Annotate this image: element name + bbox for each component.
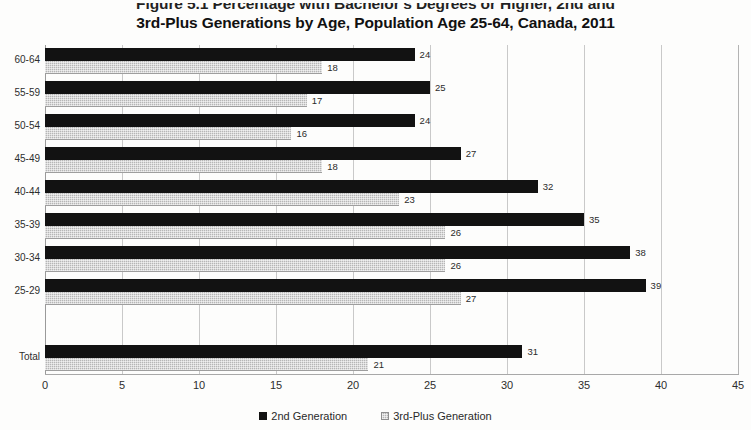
bar-25-29-series-1	[45, 279, 646, 292]
bar-45-49-series-1	[45, 147, 461, 160]
y-axis-label-30-34: 30-34	[0, 252, 40, 263]
legend-swatch-icon-3rd-plus-generation	[381, 412, 389, 420]
bar-35-39-series-1	[45, 213, 584, 226]
legend-item-2nd-generation[interactable]: 2nd Generation	[259, 410, 347, 422]
legend-label-2nd-generation: 2nd Generation	[271, 410, 347, 422]
chart-title: Figure 5.1 Percentage with Bachelor's De…	[0, 0, 751, 32]
bar-50-54-series-2	[45, 127, 291, 140]
x-axis-line	[45, 374, 739, 375]
gridline-40	[661, 45, 662, 374]
bar-40-44-series-1	[45, 180, 538, 193]
y-axis-label-45-49: 45-49	[0, 153, 40, 164]
bar-50-54-series-1	[45, 114, 415, 127]
x-tick-label-25: 25	[424, 379, 436, 391]
gridline-45	[738, 45, 739, 374]
bar-45-49-series-2	[45, 160, 322, 173]
x-tick-label-40: 40	[655, 379, 667, 391]
data-label-50-54-series-1: 24	[420, 114, 431, 127]
bar-30-34-series-1	[45, 246, 630, 259]
x-tick-label-15: 15	[270, 379, 282, 391]
x-tick-label-45: 45	[732, 379, 744, 391]
data-label-30-34-series-1: 38	[635, 246, 646, 259]
x-tick-label-20: 20	[347, 379, 359, 391]
data-label-total-series-1: 31	[527, 345, 538, 358]
data-label-25-29-series-1: 39	[651, 279, 662, 292]
bar-35-39-series-2	[45, 226, 445, 239]
legend-swatch-icon-2nd-generation	[259, 412, 267, 420]
bar-55-59-series-1	[45, 81, 430, 94]
gridline-35	[584, 45, 585, 374]
data-label-35-39-series-1: 35	[589, 213, 600, 226]
x-tick-label-30: 30	[501, 379, 513, 391]
data-label-25-29-series-2: 27	[466, 292, 477, 305]
x-tick-label-0: 0	[42, 379, 48, 391]
data-label-45-49-series-2: 18	[327, 160, 338, 173]
gridline-30	[507, 45, 508, 374]
bar-total-series-1	[45, 345, 522, 358]
gridline-20	[353, 45, 354, 374]
chart-page: Figure 5.1 Percentage with Bachelor's De…	[0, 0, 751, 430]
y-axis-label-55-59: 55-59	[0, 87, 40, 98]
data-label-50-54-series-2: 16	[296, 127, 307, 140]
data-label-30-34-series-2: 26	[450, 259, 461, 272]
y-axis-label-35-39: 35-39	[0, 219, 40, 230]
data-label-40-44-series-1: 32	[543, 180, 554, 193]
x-tick-label-35: 35	[578, 379, 590, 391]
bar-40-44-series-2	[45, 193, 399, 206]
plot-area: 241825172416271832233526382639273121	[45, 45, 738, 374]
data-label-45-49-series-1: 27	[466, 147, 477, 160]
data-label-60-64-series-2: 18	[327, 61, 338, 74]
gridline-25	[430, 45, 431, 374]
legend-item-3rd-plus-generation[interactable]: 3rd-Plus Generation	[381, 410, 491, 422]
bar-30-34-series-2	[45, 259, 445, 272]
y-axis-label-25-29: 25-29	[0, 285, 40, 296]
data-label-60-64-series-1: 24	[420, 48, 431, 61]
y-axis-label-60-64: 60-64	[0, 54, 40, 65]
y-axis-label-50-54: 50-54	[0, 120, 40, 131]
data-label-total-series-2: 21	[373, 358, 384, 371]
bar-60-64-series-1	[45, 48, 415, 61]
data-label-55-59-series-1: 25	[435, 81, 446, 94]
bar-55-59-series-2	[45, 94, 307, 107]
y-axis-label-total: Total	[0, 351, 40, 362]
data-label-55-59-series-2: 17	[312, 94, 323, 107]
chart-title-line-2: 3rd-Plus Generations by Age, Population …	[0, 13, 751, 32]
x-tick-label-10: 10	[193, 379, 205, 391]
bar-60-64-series-2	[45, 61, 322, 74]
chart-legend: 2nd Generation 3rd-Plus Generation	[0, 410, 751, 422]
legend-label-3rd-plus-generation: 3rd-Plus Generation	[393, 410, 491, 422]
data-label-35-39-series-2: 26	[450, 226, 461, 239]
data-label-40-44-series-2: 23	[404, 193, 415, 206]
x-tick-label-5: 5	[119, 379, 125, 391]
bar-25-29-series-2	[45, 292, 461, 305]
y-axis-label-40-44: 40-44	[0, 186, 40, 197]
chart-title-line-1: Figure 5.1 Percentage with Bachelor's De…	[0, 0, 751, 13]
bar-total-series-2	[45, 358, 368, 371]
